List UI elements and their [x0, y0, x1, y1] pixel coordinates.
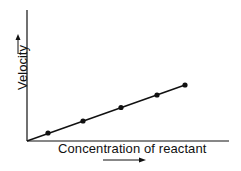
x-arrow-icon — [103, 158, 146, 163]
y-axis-label: Velocity — [15, 38, 30, 98]
data-point — [45, 130, 50, 135]
data-point — [154, 92, 159, 97]
data-point — [80, 118, 85, 123]
data-point — [118, 105, 123, 110]
x-axis-label: Concentration of reactant — [58, 141, 206, 156]
data-line — [27, 85, 185, 141]
data-point — [182, 82, 187, 87]
